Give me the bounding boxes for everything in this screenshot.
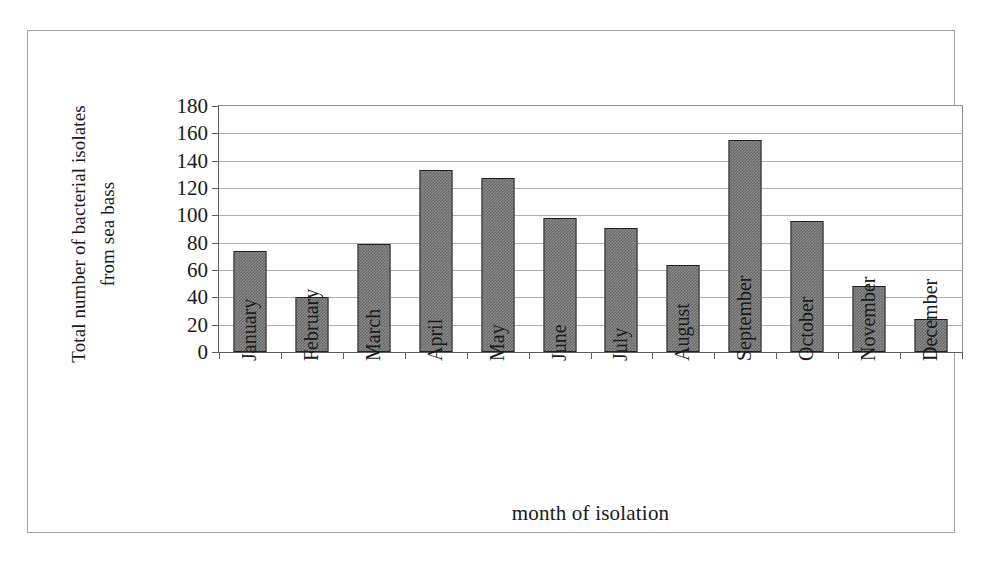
x-axis-tick [281, 352, 282, 359]
x-axis-label-slot: December [899, 361, 961, 491]
plot-area: 020406080100120140160180 [218, 105, 963, 353]
bar-slot [529, 106, 591, 352]
x-axis-tick [714, 352, 715, 359]
y-axis-tick [212, 243, 219, 244]
y-axis-tick [212, 133, 219, 134]
x-axis-label-slot: May [466, 361, 528, 491]
x-axis-tick [838, 352, 839, 359]
x-axis-tick-label: September [734, 275, 754, 361]
x-axis-tick-label: May [487, 324, 507, 361]
x-axis-tick-label: June [549, 324, 569, 361]
x-axis-tick [591, 352, 592, 359]
x-axis-tick [962, 352, 963, 359]
x-axis-tick-label: August [672, 303, 692, 361]
x-axis-label-slot: February [280, 361, 342, 491]
x-axis-tick [900, 352, 901, 359]
x-axis-label-slot: April [404, 361, 466, 491]
x-axis-label-slot: August [651, 361, 713, 491]
y-axis-tick-label: 20 [187, 314, 208, 335]
y-axis-tick-label: 80 [187, 232, 208, 253]
x-axis-tick-label: January [239, 299, 259, 361]
y-axis-tick-label: 120 [177, 178, 209, 199]
x-axis-tick-label: November [858, 277, 878, 361]
x-axis-tick [467, 352, 468, 359]
x-axis-label-slot: January [218, 361, 280, 491]
x-axis-tick [652, 352, 653, 359]
x-axis-tick-labels: JanuaryFebruaryMarchAprilMayJuneJulyAugu… [218, 361, 963, 491]
y-axis-tick [212, 325, 219, 326]
y-axis-tick-label: 160 [177, 123, 209, 144]
x-axis-tick-label: February [301, 289, 321, 361]
y-axis-tick-label: 180 [177, 96, 209, 117]
x-axis-label-slot: November [837, 361, 899, 491]
bar-slot [591, 106, 653, 352]
y-axis-tick-label: 0 [198, 342, 209, 363]
x-axis-tick-label: December [920, 279, 940, 361]
x-axis-title: month of isolation [218, 501, 963, 526]
x-axis-tick-label: July [610, 328, 630, 361]
y-axis-tick [212, 188, 219, 189]
y-axis-tick-label: 100 [177, 205, 209, 226]
x-axis-tick [776, 352, 777, 359]
y-axis-tick-label: 40 [187, 287, 208, 308]
x-axis-tick [529, 352, 530, 359]
x-axis-label-slot: June [528, 361, 590, 491]
x-axis-label-slot: September [713, 361, 775, 491]
y-axis-tick [212, 297, 219, 298]
x-axis-label-slot: March [342, 361, 404, 491]
y-axis-tick-label: 60 [187, 260, 208, 281]
bar-slot [467, 106, 529, 352]
y-axis-tick [212, 215, 219, 216]
bar-slot [405, 106, 467, 352]
y-axis-title-line-1: Total number of bacterial isolates [64, 105, 93, 362]
x-axis-tick [343, 352, 344, 359]
x-axis-tick [405, 352, 406, 359]
y-axis-tick [212, 270, 219, 271]
x-axis-tick-label: March [363, 309, 383, 361]
y-axis-title: Total number of bacterial isolates from … [63, 86, 123, 382]
x-axis-tick-label: April [425, 319, 445, 361]
y-axis-tick [212, 161, 219, 162]
y-axis-title-line-2: from sea bass [93, 182, 122, 287]
y-axis-tick [212, 352, 219, 353]
y-axis-tick-label: 140 [177, 150, 209, 171]
figure-frame: Total number of bacterial isolates from … [27, 30, 955, 533]
x-axis-label-slot: October [775, 361, 837, 491]
x-axis-tick-label: October [796, 297, 816, 361]
x-axis-tick [219, 352, 220, 359]
x-axis-label-slot: July [590, 361, 652, 491]
y-axis-tick [212, 106, 219, 107]
bar-series [219, 106, 962, 352]
